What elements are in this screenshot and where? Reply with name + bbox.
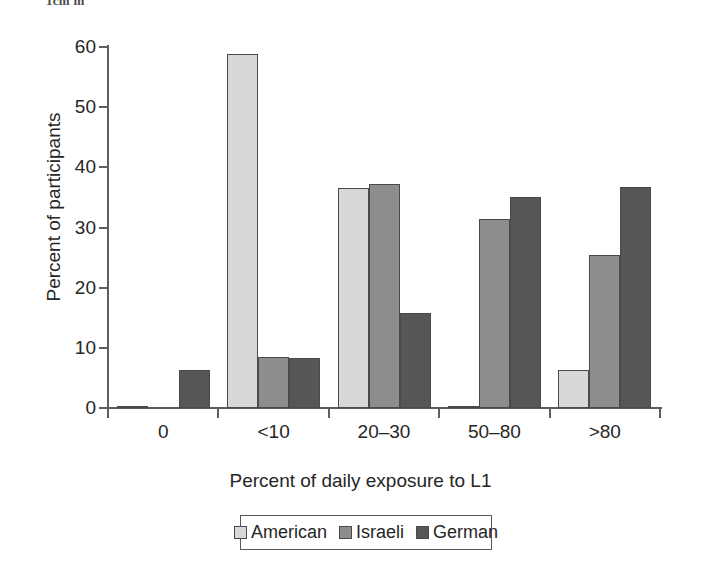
x-axis-title: Percent of daily exposure to L1	[0, 470, 721, 492]
y-axis-tick	[99, 106, 108, 108]
x-axis-tick	[438, 408, 440, 418]
y-axis-tick	[99, 287, 108, 289]
x-axis-tick-label: <10	[218, 421, 328, 443]
x-axis-tick-label: >80	[550, 421, 660, 443]
legend-swatch-icon	[234, 526, 247, 539]
bar-american-2	[338, 188, 369, 408]
bar-german-1	[289, 358, 320, 408]
legend-entry-israeli: Israeli	[339, 522, 404, 543]
bar-chart-figure: 0102030405060 Percent of participants 0<…	[0, 0, 721, 576]
bar-american-0	[117, 406, 148, 408]
legend-label: German	[433, 522, 498, 543]
legend-entry-american: American	[234, 522, 327, 543]
x-axis-tick	[217, 408, 219, 418]
legend-label: American	[251, 522, 327, 543]
bar-israeli-4	[589, 255, 620, 408]
x-axis-tick-label: 50–80	[439, 421, 549, 443]
bar-german-0	[179, 370, 210, 408]
bar-american-4	[558, 370, 589, 409]
bar-israeli-3	[479, 219, 510, 408]
x-axis-tick	[328, 408, 330, 418]
y-axis-tick	[99, 166, 108, 168]
legend-entry-german: German	[416, 522, 498, 543]
bar-israeli-2	[369, 184, 400, 408]
legend-label: Israeli	[356, 522, 404, 543]
x-axis-tick-label: 20–30	[329, 421, 439, 443]
y-axis-tick-label: 0	[6, 398, 96, 417]
bar-american-3	[448, 406, 479, 408]
legend-swatch-icon	[416, 526, 429, 539]
x-axis-tick	[659, 408, 661, 418]
bar-german-3	[510, 197, 541, 408]
x-axis-tick-label: 0	[108, 421, 218, 443]
bar-german-2	[400, 313, 431, 408]
chart-legend: AmericanIsraeliGerman	[240, 515, 492, 550]
y-axis-tick	[99, 347, 108, 349]
y-axis-title: Percent of participants	[43, 57, 65, 357]
bar-israeli-1	[258, 357, 289, 408]
y-axis-tick-label: 60	[6, 37, 96, 56]
legend-swatch-icon	[339, 526, 352, 539]
y-axis-tick	[99, 227, 108, 229]
y-axis-tick	[99, 46, 108, 48]
plot-area	[108, 47, 660, 408]
bar-american-1	[227, 54, 258, 408]
x-axis-tick	[549, 408, 551, 418]
x-axis-tick	[107, 408, 109, 418]
bar-german-4	[620, 187, 651, 408]
